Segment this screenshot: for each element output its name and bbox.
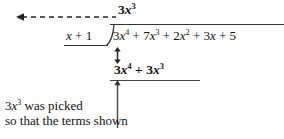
dividend-term-2: + 7x3 [129, 28, 159, 43]
divisor-variable: x [66, 28, 72, 43]
product-line: 3x4 + 3x3 [114, 63, 164, 77]
dividend-term-3: + 2x2 [159, 28, 189, 43]
product-term-2-variable: x [153, 62, 160, 77]
long-division-figure: 3x3 x + 1 3x4 + 7x3 + 2x2 + 3x + 5 3x4 +… [0, 0, 284, 139]
dividend: 3x4 + 7x3 + 2x2 + 3x + 5 [113, 29, 236, 42]
quotient-coefficient: 3 [118, 2, 125, 17]
caption-line-1-text: was picked [21, 98, 82, 113]
dividend-term-2-operator: + [133, 28, 140, 43]
dividend-term-5: + 5 [216, 28, 236, 43]
divisor-underline [64, 45, 108, 46]
divisor-constant: 1 [86, 28, 93, 43]
division-vinculum [110, 24, 284, 25]
product-term-2-operator: + [135, 62, 143, 77]
quotient-exponent: 3 [132, 2, 136, 11]
divisor: x + 1 [66, 29, 92, 42]
dividend-term-4-operator: + [193, 28, 200, 43]
dividend-term-3-operator: + [163, 28, 170, 43]
quotient-term: 3x3 [118, 3, 136, 17]
quotient-variable: x [125, 2, 132, 17]
product-underline [110, 80, 200, 81]
dashed-left-arrow-icon [16, 9, 116, 21]
product-term-1: 3x4 [114, 62, 132, 77]
product-term-1-coefficient: 3 [114, 62, 121, 77]
product-term-2-exponent: 3 [160, 62, 164, 71]
product-term-1-variable: x [121, 62, 128, 77]
caption: 3x3 was picked so that the terms shown [5, 99, 165, 130]
caption-line-2: so that the terms shown [5, 112, 165, 130]
product-term-2: + 3x3 [132, 62, 164, 77]
caption-line-1: 3x3 was picked [5, 99, 165, 112]
dividend-term-4: + 3x [190, 28, 216, 43]
dividend-term-1: 3x4 [113, 28, 129, 43]
dividend-term-5-operator: + [219, 28, 226, 43]
product-term-2-coefficient: 3 [146, 62, 153, 77]
dividend-term-5-coefficient: 5 [230, 28, 237, 43]
divisor-operator: + [75, 28, 82, 43]
